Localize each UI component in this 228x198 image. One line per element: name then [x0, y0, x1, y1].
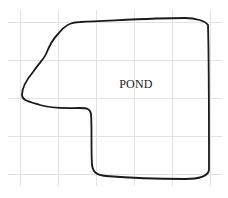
pond-diagram: POND: [0, 0, 228, 198]
grid-lines: [8, 10, 222, 186]
pond-label: POND: [119, 77, 153, 91]
